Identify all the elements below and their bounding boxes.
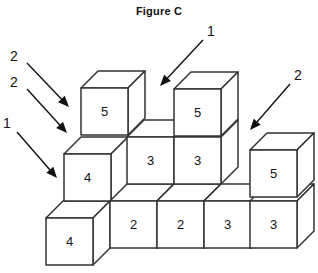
callout-left-2-upper-label: 2 [10, 48, 18, 64]
callout-right-2: 2 [250, 67, 302, 130]
callout-left-2-lower-label: 2 [10, 74, 18, 90]
callout-left-2-upper: 2 [10, 48, 69, 107]
cube-left-5: 5 [81, 71, 145, 135]
callout-top-1-label: 1 [207, 23, 215, 39]
callout-right-2-line [255, 84, 290, 124]
callout-left-1-line [17, 132, 52, 172]
callout-left-1: 1 [3, 115, 57, 178]
cube-mid2-5-label: 5 [194, 105, 201, 120]
callout-right-2-label: 2 [294, 67, 302, 83]
cube-mid3-3-label: 3 [224, 217, 231, 232]
cube-left-4-label: 4 [84, 170, 91, 185]
cube-left-4: 4 [64, 137, 128, 201]
callout-left-1-label: 1 [3, 115, 11, 131]
cube-mid1-2-label: 2 [130, 217, 137, 232]
cube-bottom-left-4: 4 [46, 201, 110, 265]
cube-stack-diagram: 44523235335 22112 [0, 0, 318, 273]
cube-mid2-2-label: 2 [177, 217, 184, 232]
cube-mid2-3-label: 3 [194, 153, 201, 168]
cubes-layer: 44523235335 [46, 71, 314, 265]
cube-right-5: 5 [250, 133, 314, 197]
cube-bottom-left-4-label: 4 [66, 234, 73, 249]
cube-left-5-label: 5 [101, 104, 108, 119]
figure-panel: Figure C 44523235335 22112 [0, 0, 318, 273]
cube-mid2-5: 5 [174, 72, 238, 136]
cube-right-3-label: 3 [270, 217, 277, 232]
cube-mid1-3-label: 3 [147, 153, 154, 168]
callout-left-2-lower: 2 [10, 74, 67, 133]
cube-right-5-label: 5 [270, 166, 277, 181]
